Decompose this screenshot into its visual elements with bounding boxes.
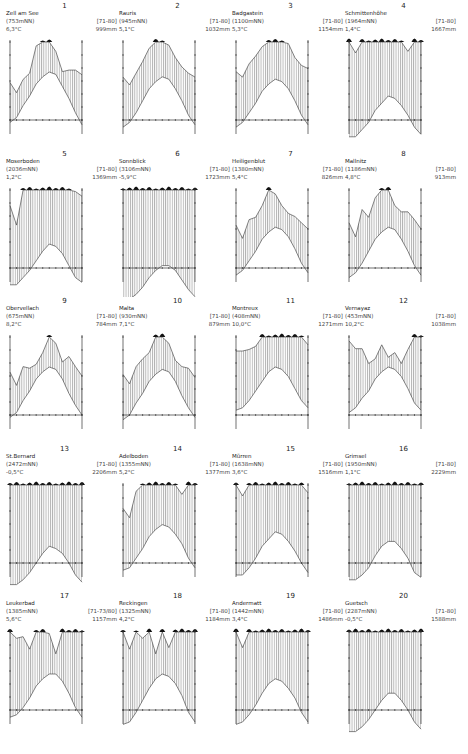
station-name: Obervellach — [6, 305, 39, 311]
station-annual-precipitation: 1032mm — [205, 26, 230, 32]
station-period: [71-80] — [323, 461, 343, 467]
station-annual-precipitation: 1184mm — [205, 616, 230, 622]
climate-plot — [232, 34, 342, 149]
station-number: 11 — [232, 297, 349, 305]
station-annual-precipitation: 784mm — [96, 321, 117, 327]
climate-diagram: 17 Leukerbad (1385mNN) [71-73/80] 5,6°C … — [6, 592, 123, 742]
station-period: [71-80] — [323, 608, 343, 614]
station-altitude: (675mNN) — [6, 313, 34, 319]
station-period: [71-80] — [210, 18, 230, 24]
station-annual-precipitation: 1723mm — [205, 174, 230, 180]
climate-diagram: 8 Mallnitz (1186mNN) [71-80] 4,8°C 913mm — [345, 150, 462, 300]
station-mean-temperature: 10,0°C — [232, 321, 251, 327]
station-number: 12 — [345, 297, 462, 305]
station-altitude: (2472mNN) — [6, 461, 38, 467]
station-mean-temperature: 10,2°C — [345, 321, 364, 327]
station-number: 1 — [6, 2, 123, 10]
station-altitude: (753mNN) — [6, 18, 34, 24]
station-mean-temperature: 6,3°C — [6, 26, 21, 32]
station-mean-temperature: 5,4°C — [232, 174, 247, 180]
climate-diagram: 1 Zell am See (753mNN) [71-80] 6,3°C 999… — [6, 2, 123, 152]
climate-plot — [119, 477, 229, 592]
station-number: 10 — [119, 297, 236, 305]
station-annual-precipitation: 1271mm — [318, 321, 343, 327]
climate-plot — [232, 477, 342, 592]
station-annual-precipitation: 879mm — [209, 321, 230, 327]
climate-diagram: 7 Heiligenblut (1380mNN) [71-80] 5,4°C 8… — [232, 150, 349, 300]
station-name: Adelboden — [119, 453, 148, 459]
station-number: 15 — [232, 445, 349, 453]
station-name: St.Bernard — [6, 453, 35, 459]
station-name: Badgastein — [232, 10, 263, 16]
station-mean-temperature: 1,2°C — [6, 174, 21, 180]
station-period: [71-80] — [97, 166, 117, 172]
climate-diagram: 11 Montreux (408mNN) [71-80] 10,0°C 1271… — [232, 297, 349, 447]
station-mean-temperature: 4,8°C — [345, 174, 360, 180]
station-mean-temperature: 5,1°C — [119, 26, 134, 32]
station-mean-temperature: 5,6°C — [6, 616, 21, 622]
station-number: 14 — [119, 445, 236, 453]
station-mean-temperature: 3,4°C — [232, 616, 247, 622]
station-mean-temperature: -0,5°C — [345, 616, 362, 622]
station-period: [71-80] — [323, 18, 343, 24]
station-annual-precipitation: 826mm — [322, 174, 343, 180]
station-altitude: (1385mNN) — [6, 608, 38, 614]
climate-diagram: 16 Grimsel (1950mNN) [71-80] 1,1°C 2229m… — [345, 445, 462, 595]
climate-diagram: 3 Badgastein (1100mNN) [71-80] 5,3°C 115… — [232, 2, 349, 152]
station-name: Malta — [119, 305, 134, 311]
station-number: 20 — [345, 592, 462, 600]
station-altitude: (1964mNN) — [345, 18, 377, 24]
climate-diagram: 19 Andermatt (1442mNN) [71-80] 3,4°C 148… — [232, 592, 349, 742]
station-altitude: (2287mNN) — [345, 608, 377, 614]
station-period: [71-80] — [97, 18, 117, 24]
station-altitude: (3106mNN) — [119, 166, 151, 172]
climate-diagram: 10 Malta (930mNN) [71-80] 7,1°C 879mm — [119, 297, 236, 447]
climate-diagram: 12 Vernayaz (453mNN) [71-80] 10,2°C 1038… — [345, 297, 462, 447]
station-mean-temperature: 7,1°C — [119, 321, 134, 327]
station-period: [71-80] — [210, 166, 230, 172]
climate-plot — [345, 34, 455, 149]
climate-diagram: 4 Schmittenhöhe (1964mNN) [71-80] 1,4°C … — [345, 2, 462, 152]
climate-diagram: 15 Mürren (1638mNN) [71-80] 3,6°C 1516mm — [232, 445, 349, 595]
station-annual-precipitation: 1154mm — [318, 26, 343, 32]
station-number: 7 — [232, 150, 349, 158]
station-name: Reckingen — [119, 600, 148, 606]
station-annual-precipitation: 1516mm — [318, 469, 343, 475]
climate-diagram: 14 Adelboden (1355mNN) [71-80] 5,2°C 137… — [119, 445, 236, 595]
station-name: Moserboden — [6, 158, 40, 164]
station-mean-temperature: 1,4°C — [345, 26, 360, 32]
station-name: Vernayaz — [345, 305, 370, 311]
station-annual-precipitation: 1038mm — [431, 321, 456, 327]
station-name: Leukerbad — [6, 600, 35, 606]
station-number: 8 — [345, 150, 462, 158]
station-mean-temperature: 3,6°C — [232, 469, 247, 475]
station-altitude: (2036mNN) — [6, 166, 38, 172]
station-period: [71-80] — [436, 313, 456, 319]
climate-plot — [119, 329, 229, 444]
station-annual-precipitation: 913mm — [435, 174, 456, 180]
station-number: 16 — [345, 445, 462, 453]
station-period: [71-80] — [323, 313, 343, 319]
station-number: 17 — [6, 592, 123, 600]
climate-plot — [232, 329, 342, 444]
station-mean-temperature: 5,3°C — [232, 26, 247, 32]
station-number: 4 — [345, 2, 462, 10]
climate-diagram-grid: 1 Zell am See (753mNN) [71-80] 6,3°C 999… — [0, 0, 468, 754]
station-period: [71-80] — [323, 166, 343, 172]
climate-plot — [6, 182, 116, 297]
station-number: 6 — [119, 150, 236, 158]
station-name: Rauris — [119, 10, 136, 16]
station-altitude: (408mNN) — [232, 313, 260, 319]
station-annual-precipitation: 1588mm — [431, 616, 456, 622]
station-altitude: (1186mNN) — [345, 166, 377, 172]
station-name: Grimsel — [345, 453, 366, 459]
climate-plot — [345, 329, 455, 444]
station-period: [71-80] — [436, 18, 456, 24]
station-mean-temperature: 8,2°C — [6, 321, 21, 327]
climate-diagram: 2 Rauris (945mNN) [71-80] 5,1°C 1032mm — [119, 2, 236, 152]
station-annual-precipitation: 1667mm — [431, 26, 456, 32]
station-altitude: (930mNN) — [119, 313, 147, 319]
station-mean-temperature: 5,2°C — [119, 469, 134, 475]
station-number: 3 — [232, 2, 349, 10]
station-period: [71-80] — [210, 313, 230, 319]
